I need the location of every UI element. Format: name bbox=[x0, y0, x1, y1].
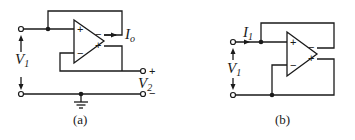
opamp-b-out-plus: + bbox=[308, 52, 314, 64]
terminal-v1-top-a bbox=[19, 27, 24, 32]
current-arrow-icon bbox=[111, 33, 117, 38]
feedback-loop-bottom-a bbox=[60, 53, 141, 71]
circuit-a: + − − + V1 Io V2 + − (a) bbox=[15, 11, 155, 127]
circuit-diagram: + − − + V1 Io V2 + − (a) + − − + I1 V1 (… bbox=[0, 0, 355, 140]
opamp-a-out-plus: + bbox=[95, 39, 101, 51]
terminal-v1-top-b bbox=[231, 40, 236, 45]
arrow-up-icon bbox=[231, 48, 236, 54]
terminal-v2-plus bbox=[141, 69, 146, 74]
caption-b: (b) bbox=[275, 112, 290, 127]
output-plus-wire-a bbox=[104, 46, 122, 71]
feedback-loop-bottom-b bbox=[272, 65, 287, 95]
opamp-a-in-plus: + bbox=[77, 23, 83, 35]
feedback-loop-top-b bbox=[261, 23, 334, 48]
label-v2-minus: − bbox=[149, 87, 155, 99]
arrow-down-icon bbox=[231, 84, 236, 90]
label-v2-plus: + bbox=[149, 65, 155, 77]
feedback-loop-top-a bbox=[48, 11, 122, 35]
opamp-b-in-plus: + bbox=[290, 36, 296, 48]
label-io: Io bbox=[124, 26, 135, 44]
junction-dot bbox=[270, 93, 275, 98]
label-v1-a: V1 bbox=[15, 51, 29, 69]
opamp-b-in-minus: − bbox=[290, 59, 296, 71]
opamp-a-in-minus: − bbox=[77, 47, 83, 59]
label-v1-b: V1 bbox=[227, 60, 241, 78]
terminal-v2-minus bbox=[141, 92, 146, 97]
label-i1: I1 bbox=[242, 24, 253, 42]
caption-a: (a) bbox=[73, 112, 87, 127]
junction-dot bbox=[259, 40, 264, 45]
arrow-up-icon bbox=[19, 35, 24, 41]
circuit-b: + − − + I1 V1 (b) bbox=[227, 23, 334, 127]
arrow-down-icon bbox=[19, 84, 24, 90]
terminal-v1-bottom-a bbox=[19, 92, 24, 97]
junction-dot bbox=[79, 92, 84, 97]
terminal-v1-bottom-b bbox=[231, 93, 236, 98]
junction-dot bbox=[46, 27, 51, 32]
